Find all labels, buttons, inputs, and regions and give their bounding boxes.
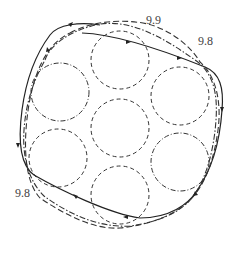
circle-upper-left: [31, 63, 89, 121]
dashed-contour: [26, 21, 220, 228]
label-left-value: 9.8: [15, 186, 30, 200]
circle-top: [91, 31, 149, 89]
circle-group: [29, 31, 209, 224]
label-top-value: 9.9: [146, 13, 161, 27]
circle-lower-right: [151, 133, 209, 191]
circle-upper-right: [151, 67, 209, 125]
arrow-icon: [220, 107, 224, 112]
circle-bottom: [91, 166, 149, 224]
label-right-value: 9.8: [198, 34, 213, 48]
arrow-markers: [16, 22, 224, 219]
diagram-canvas: 9.9 9.8 9.8: [0, 0, 236, 265]
arrow-icon: [73, 194, 78, 199]
arrow-icon: [16, 143, 20, 148]
circle-center: [91, 99, 149, 157]
dashdot-contour: [24, 23, 217, 226]
circle-lower-left: [29, 129, 87, 187]
